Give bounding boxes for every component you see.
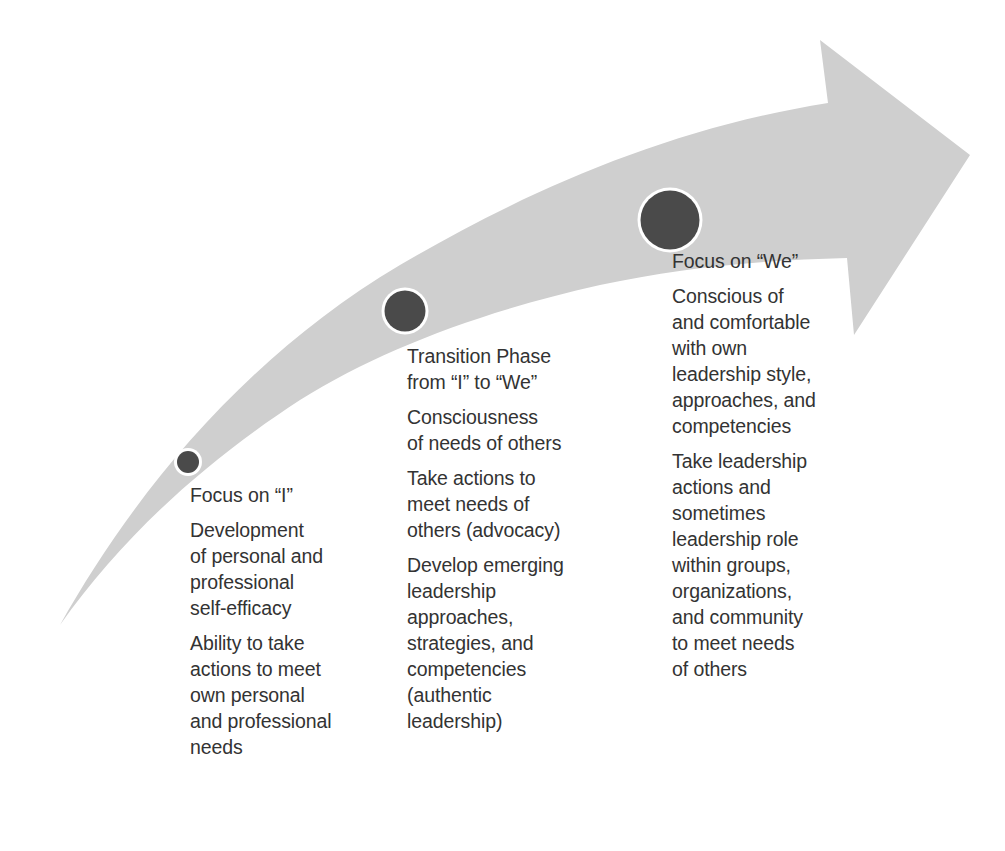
stage-2-marker-icon <box>382 288 429 335</box>
stage-heading: Focus on “We” <box>672 248 877 274</box>
stage-1-marker-icon <box>174 448 202 476</box>
stage-description: Develop emerging leadership approaches, … <box>407 552 607 734</box>
stage-description: Ability to take actions to meet own pers… <box>190 630 375 760</box>
stage-description: Take leadership actions and sometimes le… <box>672 448 877 682</box>
stage-description: Development of personal and professional… <box>190 517 375 621</box>
stage-description: Take actions to meet needs of others (ad… <box>407 465 607 543</box>
stage-heading: Transition Phase from “I” to “We” <box>407 343 607 395</box>
stage-focus-on-i: Focus on “I” Development of personal and… <box>190 482 375 769</box>
stage-heading: Focus on “I” <box>190 482 375 508</box>
stage-transition-phase: Transition Phase from “I” to “We” Consci… <box>407 343 607 743</box>
stage-3-marker-icon <box>638 188 703 253</box>
stage-description: Consciousness of needs of others <box>407 404 607 456</box>
stage-focus-on-we: Focus on “We” Conscious of and comfortab… <box>672 248 877 691</box>
stage-description: Conscious of and comfortable with own le… <box>672 283 877 439</box>
